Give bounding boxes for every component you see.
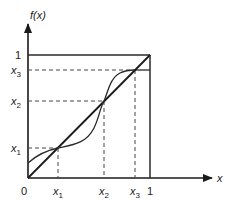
origin-label: 0	[21, 185, 27, 197]
function-curve	[28, 70, 135, 163]
diagonal-line	[28, 55, 150, 178]
y-tick-1: 1	[15, 49, 21, 61]
x-tick-1: 1	[147, 185, 153, 197]
y-tick-x1: x1	[10, 142, 22, 157]
y-tick-x2: x2	[10, 95, 22, 110]
x-tick-x2: x2	[98, 185, 110, 200]
x-axis-label: x	[216, 172, 223, 184]
x-tick-x1: x1	[52, 185, 64, 200]
y-axis-label: f(x)	[30, 9, 46, 21]
x-tick-x3: x3	[129, 185, 141, 200]
fixed-point-diagram: f(x) x 0 x1 x2 x3 1 1 x3 x2 x1	[0, 0, 232, 204]
y-tick-x3: x3	[10, 64, 22, 79]
